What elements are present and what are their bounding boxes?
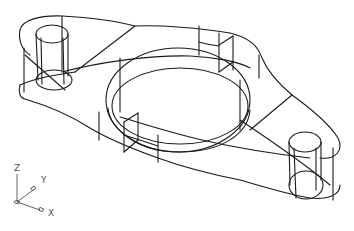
y-axis-icon: [17, 190, 33, 202]
x-axis-label: X: [48, 208, 54, 218]
z-axis-label: Z: [14, 163, 20, 173]
x-axis-icon: [17, 202, 40, 210]
central-boss: [106, 36, 250, 152]
outer-vertical-edges: [24, 16, 333, 200]
tangent-lines: [25, 26, 330, 185]
y-axis-label: Y: [40, 175, 47, 185]
ucs-icon: Z Y X: [8, 160, 68, 220]
drawing-viewport[interactable]: Z Y X: [0, 0, 354, 231]
